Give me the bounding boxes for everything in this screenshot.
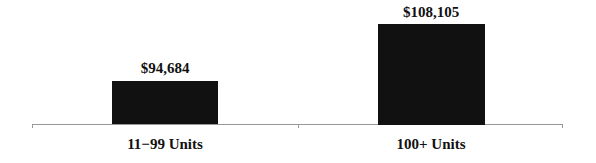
category-label-11-99-units: 11−99 Units [65,136,265,153]
category-label-100-plus-units: 100+ Units [331,136,531,153]
x-axis-tick [298,124,299,128]
bar-100-plus-units [378,24,485,125]
data-label-11-99-units: $94,684 [85,60,245,77]
x-axis-tick [562,124,563,128]
bar-chart: $94,684 11−99 Units $108,105 100+ Units [0,0,596,163]
bar-11-99-units [112,81,218,124]
x-axis-tick [32,124,33,128]
data-label-100-plus-units: $108,105 [351,4,511,21]
